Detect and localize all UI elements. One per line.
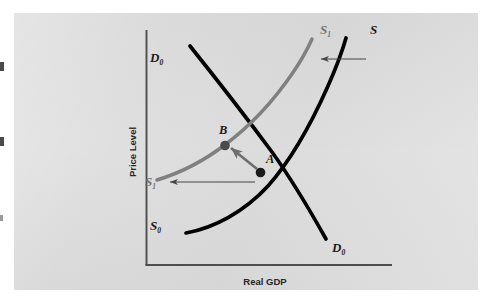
curve-aggregate-supply-s0: [186, 38, 346, 233]
shift-arrow-equilibrium: [231, 148, 257, 169]
label-s1-top-text: S: [320, 22, 327, 37]
figure-root: D0 S1 S S1 S0 D0 A B Price Level Real GD…: [0, 0, 490, 303]
label-s1-left-sub: 1: [152, 182, 156, 191]
label-d0-top: D0: [149, 50, 163, 67]
label-s1-left-text: S: [145, 174, 152, 189]
label-s1-left: S1: [145, 174, 156, 191]
label-d0-bottom: D0: [331, 240, 345, 257]
label-s0-left-sub: 0: [157, 226, 161, 235]
y-axis-title: Price Level: [127, 127, 138, 177]
label-s-top: S: [370, 22, 377, 37]
equilibrium-point-a: [256, 168, 266, 178]
label-s1-top-sub: 1: [327, 30, 331, 39]
x-axis-title: Real GDP: [243, 276, 287, 287]
label-s1-top: S1: [320, 22, 331, 39]
label-d0-bottom-text: D: [331, 240, 342, 255]
label-s-top-text: S: [370, 22, 377, 37]
equilibrium-point-b: [220, 141, 230, 151]
label-s0-left-text: S: [150, 218, 157, 233]
label-d0-top-text: D: [149, 50, 160, 65]
point-label-a: A: [265, 152, 274, 166]
chart-canvas: D0 S1 S S1 S0 D0 A B Price Level Real GD…: [0, 0, 490, 303]
curve-aggregate-demand-d0: [190, 46, 326, 239]
label-d0-top-sub: 0: [159, 58, 163, 67]
label-d0-bottom-sub: 0: [341, 248, 345, 257]
point-label-b: B: [218, 123, 227, 137]
label-s0-left: S0: [150, 218, 161, 235]
